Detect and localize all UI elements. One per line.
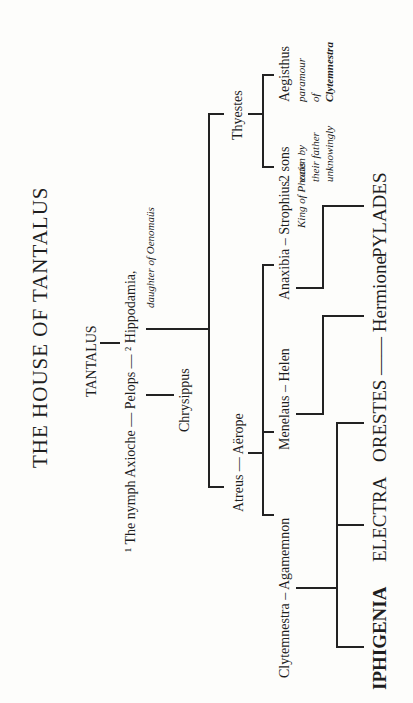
aegisthus-note-1: paramour [296, 58, 307, 102]
line-thyestes-children [248, 113, 262, 115]
node-iphigenia: IPHIGENIA [370, 587, 389, 690]
line-menelaus-children [296, 413, 322, 415]
line-to-aegisthus [262, 74, 274, 76]
line-agamemnon-children [296, 587, 336, 589]
node-chrysippus: Chrysippus [178, 368, 192, 432]
node-hippodamia-note: daughter of Oenomaüs [145, 207, 156, 308]
line-pelops-hippodamia-children [146, 328, 208, 330]
line-menelaus-bracket [322, 315, 324, 415]
node-anaxibia-strophius: Anaxibia – Strophius [278, 181, 292, 300]
node-pylades: PYLADES [370, 172, 389, 258]
node-pelops-marriages: ¹ The nymph Axioche — Pelops — ² Hippoda… [124, 271, 138, 553]
node-orestes-hermione: ORESTES —— Hermione [370, 256, 389, 462]
node-electra: ELECTRA [370, 477, 389, 563]
line-atreus-bracket [262, 431, 264, 515]
node-two-sons: 2 sons [278, 147, 292, 182]
node-strophius-note: King of Phocis [296, 163, 307, 228]
line-sons-bracket [208, 113, 210, 488]
line-strophius-bracket [322, 205, 324, 289]
line-to-atreus [208, 486, 224, 488]
line-to-chrysippus [146, 394, 174, 396]
line-to-hermione [322, 315, 364, 317]
line-to-agamemnon [262, 514, 274, 516]
node-tantalus: TANTALUS [85, 325, 99, 397]
node-atreus-aerope: Atreus — Aërope [232, 413, 246, 512]
family-tree-page: THE HOUSE OF TANTALUS TANTALUS ¹ The nym… [0, 0, 413, 703]
line-atreus-bracket-top [262, 264, 264, 432]
two-sons-note-3: unknowingly [324, 126, 335, 182]
line-thyestes-bracket [262, 74, 264, 167]
line-to-electra [336, 524, 364, 526]
node-clytemnestra-agamemnon: Clytemnestra – Agamemnon [278, 518, 292, 678]
line-to-iphigenia [336, 646, 364, 648]
line-strophius-children [296, 287, 322, 289]
node-menelaus-helen: Menelaus – Helen [278, 348, 292, 450]
line-to-thyestes [208, 113, 224, 115]
node-thyestes: Thyestes [231, 90, 245, 140]
diagram-title: THE HOUSE OF TANTALUS [30, 186, 51, 468]
aegisthus-note-3: Clytemnestra [324, 42, 335, 102]
node-aegisthus: Aegisthus [278, 46, 292, 102]
two-sons-note-2: their father [310, 132, 321, 182]
line-to-pylades [322, 205, 364, 207]
aegisthus-note-2: of [310, 93, 321, 102]
line-tantalus-pelops [100, 342, 120, 344]
line-to-two-sons [262, 166, 274, 168]
line-atreus-children [248, 452, 262, 454]
line-to-orestes [336, 422, 364, 424]
line-agamemnon-bracket [336, 422, 338, 647]
